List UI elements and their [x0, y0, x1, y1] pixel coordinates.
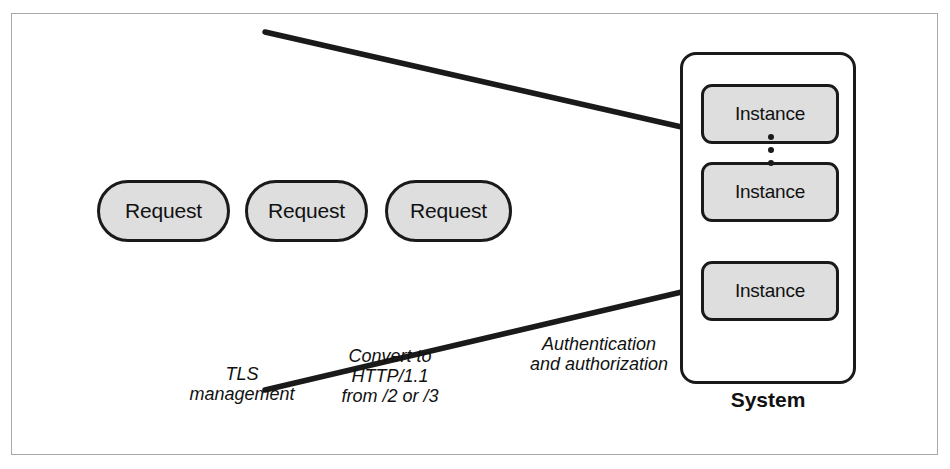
request-pill: Request	[245, 180, 368, 242]
request-pill: Request	[97, 180, 230, 242]
instance-label: Instance	[735, 280, 805, 302]
instance-box: Instance	[701, 261, 839, 321]
instance-box: Instance	[701, 162, 839, 222]
annotation-protocol-conversion: Convert to HTTP/1.1 from /2 or /3	[310, 346, 470, 406]
system-box: Instance Instance Instance System	[680, 52, 856, 384]
request-label: Request	[268, 199, 345, 223]
request-label: Request	[125, 199, 202, 223]
instance-label: Instance	[735, 181, 805, 203]
ellipsis-dot	[768, 134, 774, 140]
funnel-line-upper	[265, 32, 686, 128]
ellipsis-dot	[768, 160, 774, 166]
annotation-authentication-authorization: Authentication and authorization	[514, 334, 684, 374]
request-label: Request	[410, 199, 487, 223]
figure-container: Request Request Request Instance Instanc…	[0, 0, 950, 469]
annotation-tls-management: TLS management	[176, 364, 308, 404]
ellipsis-dot	[768, 147, 774, 153]
instance-label: Instance	[735, 103, 805, 125]
request-pill: Request	[385, 180, 512, 242]
system-label: System	[683, 388, 853, 412]
vertical-ellipsis-icon	[767, 134, 774, 166]
